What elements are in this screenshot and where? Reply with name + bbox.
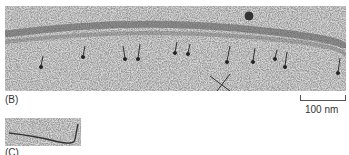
scale-bar (300, 95, 346, 101)
panel-label-c: (C) (5, 148, 19, 155)
scale-bar-label: 100 nm (305, 105, 338, 115)
micrograph-panel-c (5, 118, 81, 146)
panel-label-b: (B) (5, 95, 18, 105)
micrograph-c-image (5, 118, 81, 146)
micrograph-b-image (5, 6, 346, 91)
micrograph-panel-b (5, 6, 346, 91)
